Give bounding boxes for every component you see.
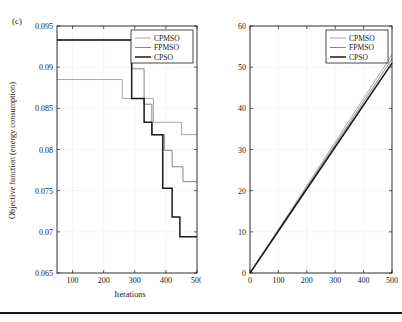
figure-panel-c: (c) Objective function (energy consumpti… <box>0 0 402 322</box>
legend-label-fpmso: FPMSO <box>349 43 374 52</box>
legend-label-cpmso: CPMSO <box>154 34 180 43</box>
svg-text:0.09: 0.09 <box>39 63 53 72</box>
svg-text:10: 10 <box>238 228 246 237</box>
svg-text:0.075: 0.075 <box>35 187 53 196</box>
svg-text:20: 20 <box>238 187 246 196</box>
svg-text:30: 30 <box>238 146 246 155</box>
series-cpmso <box>57 80 197 135</box>
svg-text:0.07: 0.07 <box>39 228 53 237</box>
legend-label-fpmso: FPMSO <box>154 43 179 52</box>
svg-text:40: 40 <box>238 104 246 113</box>
legend-label-cpso: CPSO <box>154 53 174 62</box>
chart-fitness-evaluations: Fitness function evaluations Iterations … <box>201 0 402 300</box>
svg-text:0: 0 <box>242 269 246 278</box>
svg-text:300: 300 <box>329 276 341 285</box>
svg-text:100: 100 <box>272 276 284 285</box>
figure-bottom-rule <box>0 312 402 314</box>
svg-text:0.085: 0.085 <box>35 104 53 113</box>
plot-area-right: 01002003004005000102030405060CPMSOFPMSOC… <box>201 0 402 300</box>
plot-area-left: 1002003004005000.0650.070.0750.080.0850.… <box>0 0 201 300</box>
svg-text:0: 0 <box>248 276 252 285</box>
chart-objective-convergence: (c) Objective function (energy consumpti… <box>0 0 201 300</box>
series-cpso <box>57 40 197 237</box>
legend-label-cpmso: CPMSO <box>349 34 375 43</box>
svg-text:500: 500 <box>191 276 201 285</box>
series-cpso <box>250 63 392 273</box>
svg-text:0.065: 0.065 <box>35 269 53 278</box>
svg-text:100: 100 <box>67 276 79 285</box>
svg-text:50: 50 <box>238 63 246 72</box>
svg-text:500: 500 <box>386 276 398 285</box>
svg-text:300: 300 <box>129 276 141 285</box>
svg-text:200: 200 <box>301 276 313 285</box>
svg-text:60: 60 <box>238 22 246 31</box>
legend-label-cpso: CPSO <box>349 53 369 62</box>
svg-text:400: 400 <box>358 276 370 285</box>
svg-text:200: 200 <box>98 276 110 285</box>
svg-text:0.095: 0.095 <box>35 22 53 31</box>
svg-text:0.08: 0.08 <box>39 146 53 155</box>
svg-text:400: 400 <box>160 276 172 285</box>
